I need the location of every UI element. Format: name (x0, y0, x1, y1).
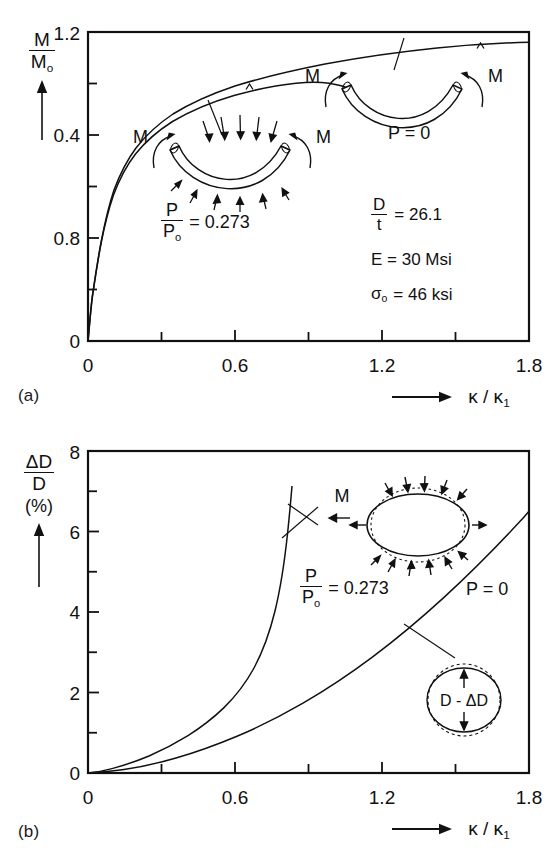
panel-b-tag: (b) (18, 822, 39, 842)
right-arrow-icon (392, 387, 454, 409)
x-tick-label: 0 (83, 787, 94, 808)
p-ratio-denominator: Po (161, 222, 183, 243)
moment-label-left: M (133, 127, 148, 147)
right-arrow-icon (392, 819, 454, 841)
x-tick-label: 1.8 (516, 787, 542, 808)
yield-stress-value: = 46 ksi (393, 286, 452, 303)
panel-b-y-ticks (88, 451, 99, 773)
curve-p-ratio-0273 (88, 486, 292, 773)
y-tick-label: 1.2 (54, 23, 80, 44)
panel-b-x-axis-label: κ / κ1 (392, 818, 510, 841)
panel-a-tag: (a) (18, 386, 39, 406)
panel-b-plot: 0 2 4 6 8 0 0.6 1.2 1.8 (0, 430, 549, 859)
moment-arrow (329, 514, 350, 522)
y-tick-label: 4 (69, 602, 80, 623)
annotation-p-ratio: P Po = 0.273 (161, 200, 250, 243)
x-tick-label: 1.2 (369, 355, 395, 376)
p-ratio-numerator: P (300, 567, 322, 585)
annotation-p-ratio: P Po = 0.273 (300, 566, 389, 609)
panel-a: M Mo (0, 0, 549, 430)
x-tick-label: 1.8 (516, 355, 542, 376)
y-tick-label: 0 (69, 763, 80, 784)
p-ratio-value: = 0.273 (328, 577, 389, 600)
p-ratio-numerator: P (161, 201, 183, 219)
x-tick-label: 0.6 (222, 787, 248, 808)
annotation-p-zero: P = 0 (466, 578, 508, 601)
y-tick-label: 0.4 (54, 125, 81, 146)
p-ratio-value: = 0.273 (189, 211, 250, 234)
moment-label-left: M (305, 66, 320, 86)
x-tick-label: 1.2 (369, 787, 395, 808)
sketch-diameter-change: D - ΔD (404, 624, 501, 736)
d-over-t-denominator: t (371, 216, 387, 233)
annotation-p-zero: P = 0 (388, 122, 430, 145)
param-modulus: E = 30 Msi (371, 251, 452, 268)
x-axis-label-subscript: 1 (503, 396, 510, 409)
param-yield-stress: σo = 46 ksi (371, 285, 452, 304)
moment-label-right: M (488, 66, 503, 86)
y-tick-label: 2 (69, 683, 80, 704)
sigma-subscript: o (382, 292, 388, 304)
x-tick-label: 0.6 (222, 355, 248, 376)
d-over-t-numerator: D (371, 196, 387, 213)
y-tick-label: 0.8 (54, 228, 80, 249)
moment-label: M (335, 486, 350, 506)
param-d-over-t: D t = 26.1 (371, 196, 452, 234)
panel-a-x-tick-labels: 0 0.6 1.2 1.8 (83, 355, 543, 376)
curve-p-zero (88, 42, 529, 341)
y-tick-label: 8 (69, 442, 80, 463)
y-tick-label: 0 (69, 331, 80, 352)
x-axis-label-subscript: 1 (503, 828, 510, 841)
x-tick-label: 0 (83, 355, 94, 376)
panel-b: ΔD D (%) (0, 430, 549, 859)
parameter-block: D t = 26.1 E = 30 Msi σo = 46 ksi (371, 196, 452, 304)
moment-label-right: M (316, 127, 331, 147)
curve-p-zero (88, 511, 529, 773)
curve-p-ratio-end-marker (246, 84, 253, 90)
panel-a-y-tick-labels: 0 0.4 1.2 (54, 23, 81, 353)
panel-b-x-tick-labels: 0 0.6 1.2 1.8 (83, 787, 543, 808)
y-tick-label: 6 (69, 522, 80, 543)
panel-a-plot: 0 0.4 1.2 0.8 0 0.6 1.2 1.8 (0, 0, 549, 430)
panel-b-y-tick-labels: 0 2 4 6 8 (69, 442, 80, 785)
sigma-symbol: σo (371, 285, 387, 304)
x-axis-label-text: κ / κ1 (468, 818, 509, 839)
diameter-change-label: D - ΔD (440, 692, 488, 709)
x-axis-label-text: κ / κ1 (468, 386, 509, 407)
panel-a-x-ticks (88, 330, 529, 341)
sketch-pressurized-pipe: M M (133, 100, 331, 212)
panel-a-x-axis-label: κ / κ1 (392, 386, 510, 409)
p-ratio-denominator: Po (300, 588, 322, 609)
d-over-t-value: = 26.1 (394, 206, 442, 223)
modulus-text: E = 30 Msi (371, 251, 452, 268)
